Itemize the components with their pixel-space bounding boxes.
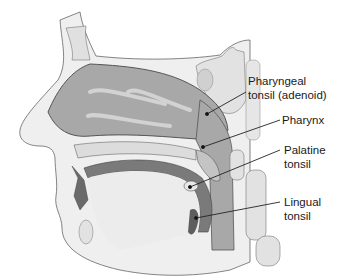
label-pharyngeal-tonsil: Pharyngeal tonsil (adenoid): [248, 74, 327, 102]
vertebra-1: [230, 150, 244, 180]
label-line: Palatine: [284, 143, 326, 157]
label-lingual-tonsil: Lingual tonsil: [284, 195, 321, 223]
mandible-bone: [79, 220, 93, 244]
label-line: tonsil (adenoid): [248, 88, 327, 102]
label-line: Lingual: [284, 195, 321, 209]
label-line: tonsil: [284, 157, 326, 171]
vertebra-3: [256, 236, 280, 266]
label-line: Pharynx: [282, 113, 324, 127]
label-line: tonsil: [284, 209, 321, 223]
label-pharynx: Pharynx: [282, 113, 324, 127]
label-palatine-tonsil: Palatine tonsil: [284, 143, 326, 171]
label-line: Pharyngeal: [248, 74, 327, 88]
anatomy-illustration: [0, 0, 347, 280]
